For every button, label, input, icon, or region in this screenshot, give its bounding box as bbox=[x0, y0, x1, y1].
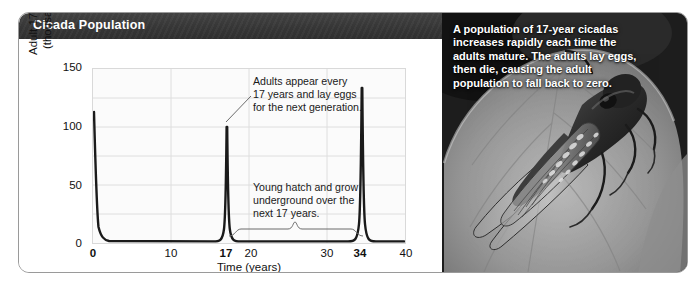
figure-title-bar: Cicada Population bbox=[19, 13, 442, 39]
annotation-young-line3: next 17 years. bbox=[253, 207, 358, 220]
annotation-adults-line2: 17 years and lay eggs bbox=[253, 88, 362, 101]
annotation-adults-line3: for the next generation. bbox=[253, 101, 362, 114]
chart-panel: Adult 17-Year Cicadas (thousands per acr… bbox=[19, 39, 442, 273]
cicada-photo: A population of 17-year cicadas increase… bbox=[442, 13, 688, 273]
x-tick-40: 40 bbox=[400, 247, 413, 259]
photo-caption: A population of 17-year cicadas increase… bbox=[453, 23, 681, 90]
x-tick-20: 20 bbox=[245, 247, 258, 259]
photo-caption-line5: population to fall back to zero. bbox=[453, 77, 681, 90]
x-tick-10: 10 bbox=[165, 247, 178, 259]
annotation-young-line1: Young hatch and grow bbox=[253, 181, 358, 194]
annotation-leader-line bbox=[226, 96, 251, 122]
y-tick-100: 100 bbox=[36, 120, 82, 132]
x-axis-title: Time (years) bbox=[92, 261, 406, 273]
y-tick-50: 50 bbox=[36, 179, 82, 191]
photo-caption-line3: adults mature. The adults lay eggs, bbox=[453, 50, 681, 63]
annotation-young-hatch: Young hatch and grow underground over th… bbox=[253, 181, 358, 220]
photo-caption-line1: A population of 17-year cicadas bbox=[453, 23, 681, 36]
x-tick-30: 30 bbox=[321, 247, 334, 259]
x-tick-0: 0 bbox=[90, 247, 96, 259]
photo-caption-line2: increases rapidly each time the bbox=[453, 36, 681, 49]
figure-panel: Cicada Population Adult 17-Year Cicadas … bbox=[18, 12, 688, 273]
x-tick-17: 17 bbox=[220, 247, 233, 259]
photo-caption-line4: then die, causing the adult bbox=[453, 63, 681, 76]
y-tick-0: 0 bbox=[36, 237, 82, 249]
annotation-adults-line1: Adults appear every bbox=[253, 75, 362, 88]
annotation-young-line2: underground over the bbox=[253, 194, 358, 207]
y-tick-150: 150 bbox=[36, 61, 82, 73]
x-tick-34: 34 bbox=[354, 247, 367, 259]
annotation-adults-appear: Adults appear every 17 years and lay egg… bbox=[253, 75, 362, 114]
